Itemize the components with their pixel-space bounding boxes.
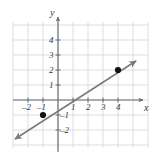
x-tick-label-minus1: –1 <box>37 103 46 112</box>
data-point-minus1-minus1 <box>40 112 46 118</box>
x-tick-label-2: 2 <box>86 103 91 112</box>
y-tick-label-3: 3 <box>49 51 54 60</box>
coordinate-plane-figure: y x 4 3 2 1 –1 –2 –2 –1 1 2 3 4 <box>0 0 153 159</box>
graph-canvas <box>0 0 153 159</box>
y-tick-label-minus1: –1 <box>60 111 69 120</box>
grid-lines <box>13 22 148 148</box>
y-tick-label-4: 4 <box>49 36 54 45</box>
data-point-4-2 <box>115 67 121 73</box>
x-tick-label-3: 3 <box>101 103 106 112</box>
y-axis-label: y <box>50 8 54 18</box>
x-axis-label: x <box>144 103 148 113</box>
x-tick-label-minus2: –2 <box>22 103 31 112</box>
x-tick-label-1: 1 <box>71 103 76 112</box>
x-tick-label-4: 4 <box>116 103 121 112</box>
y-tick-label-minus2: –2 <box>60 126 69 135</box>
y-tick-label-2: 2 <box>49 66 54 75</box>
y-tick-label-1: 1 <box>49 81 54 90</box>
axis-lines <box>13 17 143 152</box>
